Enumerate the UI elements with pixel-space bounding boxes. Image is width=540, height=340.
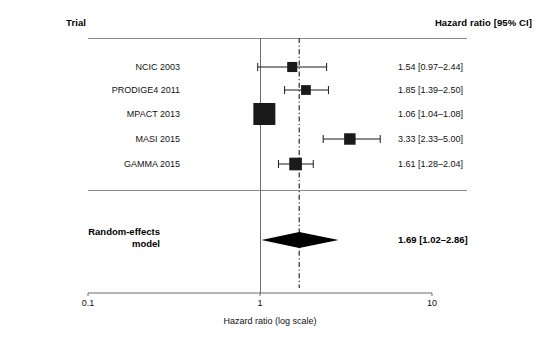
forest-row-1 [285, 85, 329, 95]
study-effect-marker [344, 133, 355, 144]
study-effect-marker [289, 158, 302, 171]
x-tick-label-1: 1 [230, 298, 290, 308]
summary-diamond [261, 232, 338, 248]
study-value-2: 1.06 [1.04–1.08] [398, 109, 534, 119]
study-effect-marker [253, 103, 275, 125]
study-label-0: NCIC 2003 [20, 62, 180, 72]
forest-row-4 [278, 158, 313, 171]
study-value-3: 3.33 [2.33–5.00] [398, 134, 534, 144]
study-effect-marker [301, 85, 311, 95]
x-tick-label-0: 0.1 [58, 298, 118, 308]
summary-value: 1.69 [1.02–2.86] [398, 234, 468, 245]
summary-label-line1: Random-effects [88, 226, 160, 237]
forest-row-3 [323, 133, 380, 144]
study-value-1: 1.85 [1.39–2.50] [398, 85, 534, 95]
study-label-1: PRODIGE4 2011 [20, 85, 180, 95]
summary-label-line2: model [20, 238, 160, 250]
forest-plot-canvas [0, 0, 540, 340]
study-label-3: MASI 2015 [20, 134, 180, 144]
study-effect-marker [287, 62, 297, 72]
summary-row-label: Random-effects model [20, 226, 160, 250]
forest-plot: Trial Hazard ratio [95% CI] NCIC 2003 PR… [0, 0, 540, 340]
study-label-2: MPACT 2013 [20, 109, 180, 119]
study-value-0: 1.54 [0.97–2.44] [398, 62, 534, 72]
x-axis-title: Hazard ratio (log scale) [0, 316, 540, 326]
forest-row-0 [258, 62, 327, 72]
forest-row-2 [253, 103, 275, 125]
study-label-4: GAMMA 2015 [20, 159, 180, 169]
study-value-4: 1.61 [1.28–2.04] [398, 159, 534, 169]
x-tick-label-2: 10 [402, 298, 462, 308]
